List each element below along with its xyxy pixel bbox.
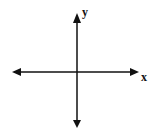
x-axis-left-arrow-icon bbox=[12, 68, 21, 76]
x-axis bbox=[12, 68, 139, 76]
coordinate-axes-diagram: y x bbox=[0, 0, 158, 128]
x-axis-right-arrow-icon bbox=[130, 68, 139, 76]
y-axis bbox=[73, 13, 81, 128]
y-axis-down-arrow-icon bbox=[73, 120, 81, 128]
x-axis-label: x bbox=[141, 70, 147, 84]
y-axis-up-arrow-icon bbox=[73, 13, 81, 23]
y-axis-label: y bbox=[82, 5, 88, 19]
